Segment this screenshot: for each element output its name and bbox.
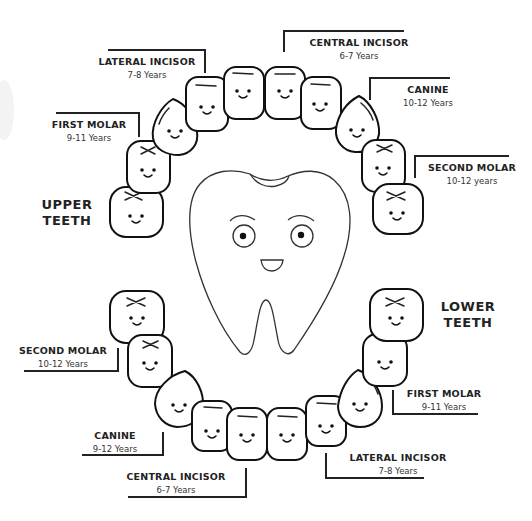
- eruption-age: 10-12 Years: [388, 98, 468, 108]
- tooth-lower-first-molar-left: [128, 335, 172, 387]
- eruption-age: 9-11 Years: [46, 133, 132, 143]
- label-lower-central-incisor: CENTRAL INCISOR 6-7 Years: [124, 471, 228, 495]
- tooth-name: CENTRAL INCISOR: [124, 471, 228, 482]
- tooth-name: LATERAL INCISOR: [92, 56, 202, 67]
- label-upper-central-incisor: CENTRAL INCISOR 6-7 Years: [304, 37, 414, 61]
- eruption-age: 7-8 Years: [346, 466, 450, 476]
- tooth-lower-central-incisor-left: [227, 408, 267, 460]
- tooth-name: CENTRAL INCISOR: [304, 37, 414, 48]
- label-lower-lateral-incisor: LATERAL INCISOR 7-8 Years: [346, 452, 450, 476]
- eruption-age: 10-12 Years: [18, 359, 108, 369]
- tooth-upper-lateral-incisor-right: [301, 77, 341, 129]
- tooth-upper-second-molar-left: [110, 187, 163, 237]
- label-upper-first-molar: FIRST MOLAR 9-11 Years: [46, 119, 132, 143]
- tooth-name: LATERAL INCISOR: [346, 452, 450, 463]
- lower-teeth-title-line1: LOWER: [438, 299, 498, 315]
- tooth-name: SECOND MOLAR: [18, 345, 108, 356]
- lower-teeth: [110, 289, 423, 460]
- lower-teeth-title: LOWER TEETH: [438, 299, 498, 331]
- tooth-name: FIRST MOLAR: [404, 388, 484, 399]
- tooth-name: CANINE: [388, 84, 468, 95]
- upper-teeth-title: UPPER TEETH: [38, 197, 96, 229]
- background-shape: [0, 80, 14, 140]
- label-upper-lateral-incisor: LATERAL INCISOR 7-8 Years: [92, 56, 202, 80]
- mascot-tooth: [190, 171, 350, 355]
- tooth-name: CANINE: [82, 430, 148, 441]
- eruption-age: 10-12 years: [424, 176, 520, 186]
- label-lower-second-molar: SECOND MOLAR 10-12 Years: [18, 345, 108, 369]
- tooth-upper-lateral-incisor-left: [186, 77, 228, 131]
- eruption-age: 6-7 Years: [304, 51, 414, 61]
- tooth-name: SECOND MOLAR: [424, 162, 520, 173]
- tooth-upper-second-molar-right: [373, 184, 423, 234]
- tooth-name: FIRST MOLAR: [46, 119, 132, 130]
- upper-teeth-title-line2: TEETH: [38, 213, 96, 229]
- tooth-lower-central-incisor-right: [267, 408, 307, 460]
- diagram-artwork: [0, 0, 532, 521]
- label-lower-first-molar: FIRST MOLAR 9-11 Years: [404, 388, 484, 412]
- label-upper-canine: CANINE 10-12 Years: [388, 84, 468, 108]
- label-lower-canine: CANINE 9-12 Years: [82, 430, 148, 454]
- eruption-age: 6-7 Years: [124, 485, 228, 495]
- upper-teeth-title-line1: UPPER: [38, 197, 96, 213]
- label-upper-second-molar: SECOND MOLAR 10-12 years: [424, 162, 520, 186]
- tooth-lower-second-molar-right: [370, 289, 423, 341]
- eruption-age: 7-8 Years: [92, 70, 202, 80]
- tooth-upper-central-incisor-right: [265, 67, 305, 119]
- teeth-eruption-diagram: UPPER TEETH LOWER TEETH LATERAL INCISOR …: [0, 0, 532, 521]
- lower-teeth-title-line2: TEETH: [438, 315, 498, 331]
- tooth-upper-central-incisor-left: [224, 67, 264, 119]
- eruption-age: 9-12 Years: [82, 444, 148, 454]
- eruption-age: 9-11 Years: [404, 402, 484, 412]
